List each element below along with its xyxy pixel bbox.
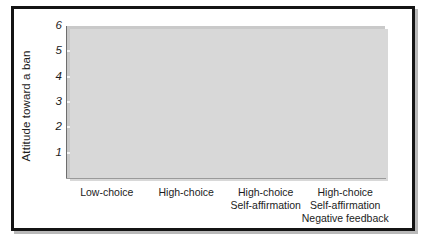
y-axis-title: Attitude toward a ban (19, 38, 33, 174)
bar-chart: Attitude toward a ban 123456 Low-choiceH… (0, 0, 429, 244)
x-axis-line (66, 178, 386, 179)
x-axis-category-label: High-choiceSelf-affirmationNegative feed… (285, 186, 405, 225)
y-axis-tick-labels: 123456 (46, 20, 64, 182)
y-axis-tick-label: 1 (46, 147, 62, 158)
y-axis-tick-label: 6 (46, 20, 62, 31)
y-axis-spine (66, 26, 67, 179)
y-axis-tick-label: 5 (46, 45, 62, 56)
plot-panel-shadow (70, 29, 388, 181)
y-axis-tick-label: 2 (46, 121, 62, 132)
x-axis-category-labels: Low-choiceHigh-choiceHigh-choiceSelf-aff… (67, 186, 389, 238)
figure-root: Attitude toward a ban 123456 Low-choiceH… (0, 0, 429, 244)
y-axis-tick-label: 4 (46, 71, 62, 82)
y-axis-tick-label: 3 (46, 96, 62, 107)
